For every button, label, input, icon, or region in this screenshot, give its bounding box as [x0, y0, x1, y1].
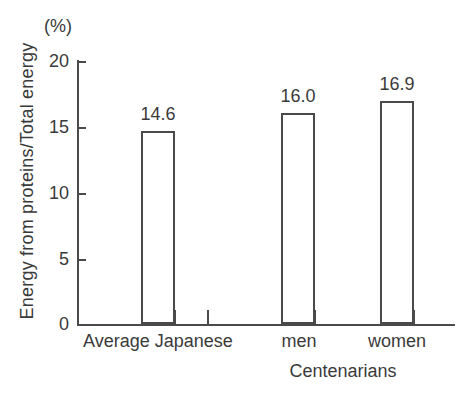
plot-area: 20 15 10 5 0 14.6 16.0: [77, 60, 455, 326]
bar-centenarian-men[interactable]: [281, 113, 315, 324]
x-category-label-men: men: [261, 330, 337, 352]
x-tick-sep-1: [207, 310, 209, 325]
y-tick-label-20: 20: [49, 51, 69, 71]
y-tick-label-0: 0: [59, 314, 69, 334]
bar-value-centenarian-women: 16.9: [360, 74, 434, 94]
bar-value-centenarian-men: 16.0: [261, 86, 335, 106]
x-axis-group-label: Centenarians: [243, 360, 443, 382]
y-axis-title: Energy from proteins/Total energy: [14, 16, 40, 346]
y-tick-label-5: 5: [59, 249, 69, 269]
bar-average-japanese[interactable]: [141, 131, 175, 324]
y-tick-label-15: 15: [49, 117, 69, 137]
bar-chart: Energy from proteins/Total energy (%) 20…: [0, 0, 466, 397]
y-axis-unit-label: (%): [44, 16, 72, 37]
bar-centenarian-women[interactable]: [380, 101, 414, 324]
x-category-label-average-japanese: Average Japanese: [83, 330, 201, 352]
bar-value-average-japanese: 14.6: [121, 104, 195, 124]
y-tick-label-10: 10: [49, 183, 69, 203]
x-category-label-women: women: [347, 330, 447, 352]
x-axis-line: [77, 324, 455, 326]
